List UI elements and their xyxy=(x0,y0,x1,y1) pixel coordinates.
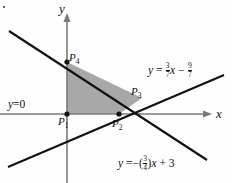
y-axis-label: y xyxy=(59,2,65,15)
x-axis-arrowhead xyxy=(203,110,212,117)
desc-slope-fraction: 3 4 xyxy=(143,155,147,171)
p2-subscript: 2 xyxy=(119,123,123,132)
x-axis-label: x xyxy=(216,107,222,120)
desc-slope-denominator: 4 xyxy=(143,163,147,172)
vertex-label-p3: P3 xyxy=(131,86,141,100)
asc-constant-numerator: 9 xyxy=(188,62,192,70)
asc-constant-fraction: 9 7 xyxy=(188,62,192,78)
p1-subscript: 1 xyxy=(65,121,69,130)
desc-negative-paren: −( xyxy=(132,157,142,169)
line-label-ascending: y = 3 7 x − 9 7 xyxy=(148,62,192,78)
asc-equals: = xyxy=(156,64,163,76)
line-label-y-equals-zero: y=0 xyxy=(8,99,25,111)
line-label-descending: y =−( 3 4 )x + 3 xyxy=(118,155,175,171)
vertex-label-p4: P4 xyxy=(69,52,79,66)
coordinate-plane-figure: y x y=0 y = 3 7 x − 9 7 y =−( 3 4 )x + 3… xyxy=(0,0,232,183)
desc-variable: x xyxy=(151,157,156,169)
vertex-label-p1: P1 xyxy=(58,116,68,130)
p3-subscript: 3 xyxy=(138,91,142,100)
figure-canvas xyxy=(0,0,232,183)
p1-letter: P xyxy=(58,115,65,127)
asc-minus: − xyxy=(178,64,185,76)
y-zero-rhs: 0 xyxy=(20,98,26,110)
asc-lhs: y xyxy=(148,64,153,76)
p3-letter: P xyxy=(131,85,138,97)
desc-lhs: y xyxy=(118,157,123,169)
desc-slope-numerator: 3 xyxy=(143,155,147,163)
asc-constant-denominator: 7 xyxy=(188,70,192,79)
p4-subscript: 4 xyxy=(76,57,80,66)
desc-plus: + xyxy=(159,157,166,169)
vertex-dot-p2 xyxy=(116,111,121,116)
p2-letter: P xyxy=(112,117,119,129)
p4-letter: P xyxy=(69,51,76,63)
desc-constant: 3 xyxy=(169,157,175,169)
asc-variable: x xyxy=(170,64,175,76)
vertex-label-p2: P2 xyxy=(112,118,122,132)
